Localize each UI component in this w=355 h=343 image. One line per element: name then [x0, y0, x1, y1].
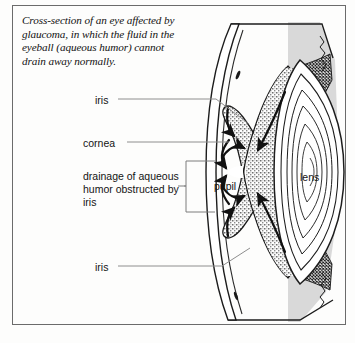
pupil-opening — [228, 166, 243, 178]
label-lens: lens — [300, 171, 319, 184]
label-cornea: cornea — [83, 137, 115, 150]
label-pupil: pupil — [214, 180, 236, 193]
label-drainage-obstructed: drainage of aqueous humor obstructed by … — [83, 170, 183, 209]
label-iris-top: iris — [95, 94, 108, 107]
figure-page: Cross-section of an eye affected by glau… — [0, 0, 355, 343]
label-iris-bottom: iris — [95, 261, 108, 274]
leader-iris-bottom — [118, 248, 250, 266]
